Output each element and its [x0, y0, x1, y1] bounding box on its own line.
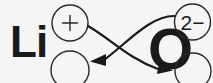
anion-charge-label: 2−: [181, 11, 205, 34]
plus-icon: [63, 16, 78, 31]
lithium-subscript-slot[interactable]: [51, 51, 89, 83]
cation-symbol-li: Li: [10, 17, 47, 66]
arrowhead-left-icon: [90, 54, 106, 66]
criss-cross-diagram-canvas: Li O 2−: [0, 0, 213, 83]
ionic-formula-diagram: Li O 2−: [0, 0, 213, 83]
